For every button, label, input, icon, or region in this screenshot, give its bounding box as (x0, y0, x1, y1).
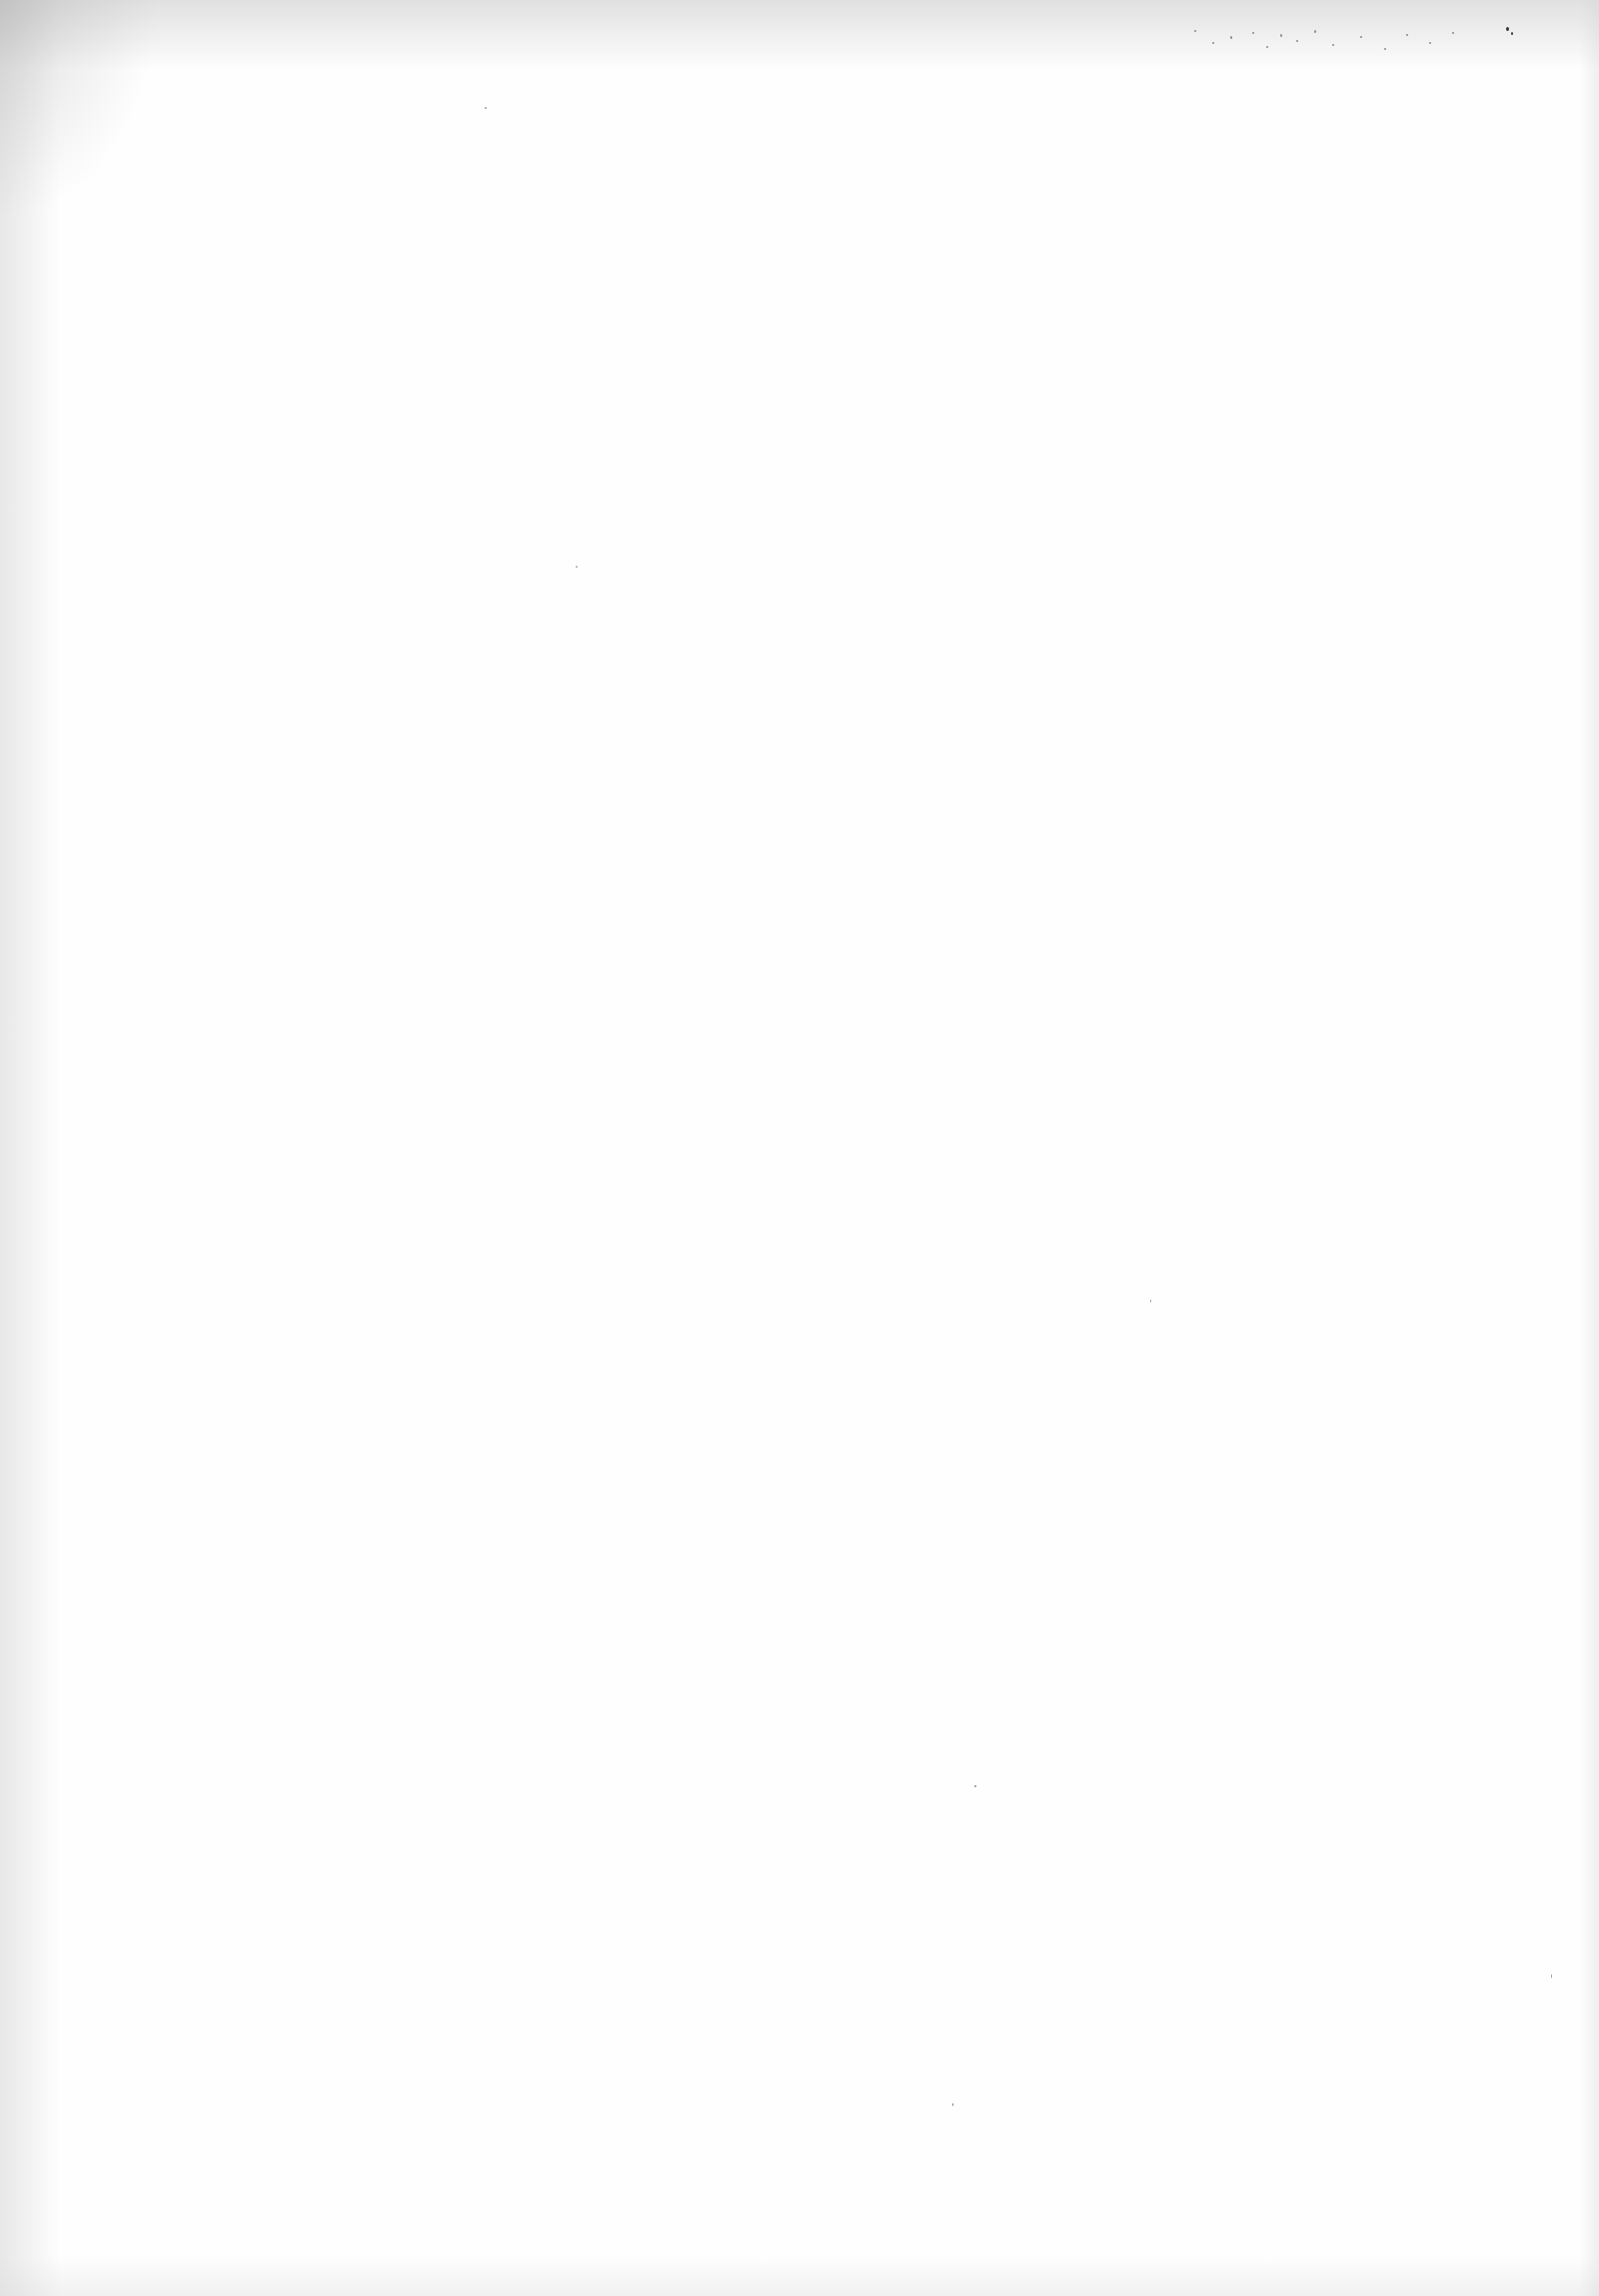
scan-speck (1511, 32, 1513, 35)
bleed-through-marks (1184, 22, 1524, 62)
blank-document-page (0, 0, 1599, 2296)
scan-shadow-bottom (0, 2256, 1599, 2296)
scan-speck (974, 1785, 976, 1787)
scan-speck (576, 566, 578, 568)
scan-speck (1551, 1974, 1552, 1978)
scan-speck (1150, 1299, 1151, 1302)
scan-speck (1506, 27, 1509, 31)
scan-speck (485, 107, 487, 109)
scan-shadow-right (1579, 0, 1599, 2296)
scan-speck (952, 2103, 953, 2106)
scan-shadow-left (0, 0, 60, 2296)
scan-shadow-corner (0, 0, 160, 220)
